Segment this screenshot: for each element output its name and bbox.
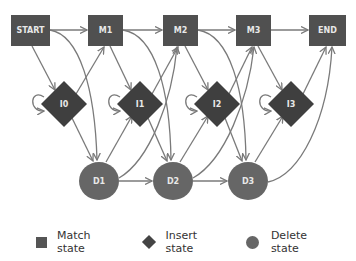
node-label: I0: [60, 100, 69, 109]
legend-item-insert: Insert state: [140, 229, 228, 255]
node-start[interactable]: START: [11, 15, 50, 46]
edge-i0-d1: [72, 118, 93, 161]
delete-circle-icon: [246, 236, 259, 249]
node-label: I1: [136, 100, 145, 109]
node-label: D2: [167, 177, 179, 186]
profile-hmm-diagram: START M1 M2 M3 END I0 I1 I2: [0, 0, 356, 261]
node-m3[interactable]: M3: [236, 15, 271, 46]
node-label: I2: [213, 100, 222, 109]
node-label: END: [318, 26, 337, 35]
node-label: M3: [247, 26, 261, 35]
node-d1[interactable]: D1: [79, 162, 119, 200]
node-m1[interactable]: M1: [88, 15, 123, 46]
insert-states: I0 I1 I2 I3: [41, 81, 314, 127]
edge-start-i0: [32, 46, 55, 90]
node-label: D1: [93, 177, 106, 186]
node-d2[interactable]: D2: [153, 162, 193, 200]
node-i3[interactable]: I3: [268, 81, 314, 127]
node-end[interactable]: END: [309, 15, 346, 46]
node-d3[interactable]: D3: [228, 162, 268, 200]
edge-i2-m3: [229, 47, 252, 94]
edge-i0-m1: [76, 47, 104, 94]
node-m2[interactable]: M2: [163, 15, 198, 46]
node-label: I3: [287, 100, 296, 109]
edge-d3-i3: [255, 116, 283, 162]
legend-item-delete: Delete state: [246, 229, 338, 255]
match-square-icon: [36, 237, 47, 248]
legend: Match state Insert state Delete state: [36, 229, 356, 255]
delete-states: D1 D2 D3: [79, 162, 268, 200]
node-label: M2: [174, 26, 188, 35]
edge-d1-i1: [106, 116, 132, 162]
legend-item-match: Match state: [36, 229, 122, 255]
node-i2[interactable]: I2: [194, 81, 240, 127]
edge-i3-end: [303, 47, 326, 94]
edge-m1-i1: [110, 46, 131, 90]
insert-diamond-icon: [141, 235, 155, 249]
node-label: D3: [242, 177, 254, 186]
edge-m2-i2: [185, 46, 208, 90]
legend-label: Insert state: [165, 229, 228, 255]
edge-d2-i2: [180, 116, 208, 162]
node-label: M1: [99, 26, 113, 35]
edge-m3-i3: [258, 46, 282, 90]
legend-label: Delete state: [271, 229, 338, 255]
legend-label: Match state: [57, 229, 122, 255]
node-label: START: [16, 26, 45, 35]
